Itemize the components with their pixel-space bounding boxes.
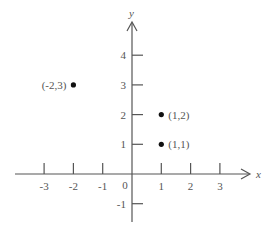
x-tick-label: -1 (98, 180, 107, 192)
y-tick-label: -1 (117, 198, 126, 210)
axes (15, 22, 250, 222)
data-points: (-2,3)(1,2)(1,1) (42, 79, 190, 151)
x-tick-label: -2 (69, 180, 78, 192)
data-point-marker (159, 112, 164, 117)
x-axis-label: x (255, 168, 261, 180)
y-tick-label: 3 (121, 79, 127, 91)
x-tick-label: 1 (159, 180, 165, 192)
y-tick-label: 1 (121, 138, 127, 150)
y-axis-ticks: -11234 (117, 49, 143, 210)
y-tick-label: 4 (121, 49, 127, 61)
data-point-label: (1,1) (168, 138, 189, 151)
data-point-marker (159, 142, 164, 147)
y-axis-label: y (128, 7, 134, 19)
x-tick-label: 2 (188, 180, 194, 192)
x-axis-ticks: -3-2-1123 (40, 163, 224, 192)
data-point-label: (1,2) (168, 109, 189, 122)
origin-label: 0 (122, 179, 128, 191)
data-point-label: (-2,3) (42, 79, 67, 92)
coordinate-plane: -3-2-1123 -11234 (-2,3)(1,2)(1,1) x y 0 (0, 0, 272, 226)
data-point-marker (71, 82, 76, 87)
x-tick-label: -3 (40, 180, 50, 192)
x-tick-label: 3 (217, 180, 223, 192)
y-tick-label: 2 (121, 109, 127, 121)
